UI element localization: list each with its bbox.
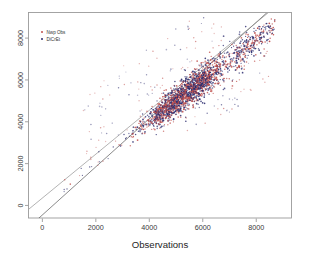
data-point bbox=[173, 119, 175, 121]
data-point bbox=[196, 91, 197, 92]
data-point bbox=[140, 124, 142, 126]
data-point bbox=[195, 100, 196, 101]
data-point bbox=[246, 32, 248, 34]
data-point bbox=[247, 37, 248, 38]
data-point bbox=[172, 68, 173, 69]
data-point bbox=[182, 81, 184, 83]
data-point bbox=[161, 99, 162, 100]
data-point bbox=[239, 52, 241, 54]
data-point bbox=[251, 54, 252, 55]
data-point bbox=[229, 70, 230, 71]
data-point bbox=[187, 93, 188, 94]
data-point bbox=[111, 122, 112, 123]
data-point bbox=[214, 65, 216, 67]
data-point bbox=[241, 45, 242, 46]
data-point bbox=[195, 124, 197, 126]
data-point bbox=[154, 129, 156, 131]
data-point bbox=[152, 93, 153, 94]
data-point bbox=[209, 87, 211, 89]
data-point bbox=[90, 156, 92, 158]
data-point bbox=[236, 67, 238, 69]
data-point bbox=[154, 121, 156, 123]
data-point bbox=[218, 45, 219, 46]
data-point bbox=[193, 97, 195, 99]
data-point bbox=[185, 109, 187, 111]
data-point bbox=[251, 36, 253, 38]
data-point bbox=[199, 78, 201, 80]
data-point bbox=[204, 87, 205, 88]
data-point bbox=[196, 68, 197, 69]
data-point bbox=[250, 89, 251, 90]
data-point bbox=[238, 54, 239, 55]
data-point bbox=[223, 45, 224, 46]
data-point bbox=[247, 55, 248, 56]
data-point bbox=[167, 38, 168, 39]
data-point bbox=[191, 90, 192, 91]
data-point bbox=[166, 112, 167, 113]
data-point bbox=[144, 117, 145, 118]
data-point bbox=[182, 106, 183, 107]
y-tick-label: 2000 bbox=[17, 156, 26, 172]
data-point bbox=[225, 66, 227, 68]
data-point bbox=[206, 81, 207, 82]
data-point bbox=[99, 103, 100, 104]
data-point bbox=[173, 88, 174, 89]
data-point bbox=[256, 44, 258, 46]
data-point bbox=[204, 93, 205, 94]
data-point bbox=[198, 87, 200, 89]
data-point bbox=[266, 32, 268, 34]
data-point bbox=[188, 29, 189, 30]
data-point bbox=[137, 81, 138, 82]
data-point bbox=[249, 52, 250, 53]
data-point bbox=[253, 47, 255, 49]
data-point bbox=[128, 133, 129, 134]
data-point bbox=[226, 56, 227, 57]
data-point bbox=[202, 70, 203, 71]
data-point bbox=[261, 36, 263, 38]
data-point bbox=[183, 100, 184, 101]
data-point bbox=[222, 74, 224, 76]
data-point bbox=[118, 144, 120, 146]
data-point bbox=[169, 115, 170, 116]
data-point bbox=[239, 79, 240, 80]
data-point bbox=[152, 50, 154, 52]
data-point bbox=[197, 99, 199, 101]
plot-canvas: 02000400060008000 02000400060008000 Obse… bbox=[0, 0, 311, 259]
x-tick-label: 0 bbox=[40, 223, 44, 232]
data-point bbox=[132, 137, 134, 139]
data-point bbox=[186, 47, 188, 49]
data-point bbox=[188, 105, 189, 106]
data-point bbox=[159, 107, 161, 109]
data-point bbox=[166, 49, 168, 51]
data-point bbox=[178, 112, 180, 114]
data-point bbox=[221, 73, 222, 74]
data-point bbox=[206, 68, 208, 70]
data-point bbox=[213, 66, 215, 68]
data-point bbox=[265, 53, 266, 54]
data-point bbox=[200, 95, 202, 97]
data-point bbox=[174, 45, 175, 46]
data-point bbox=[187, 59, 188, 60]
data-point bbox=[179, 105, 181, 107]
data-point bbox=[240, 91, 241, 92]
data-point bbox=[212, 77, 213, 78]
data-point bbox=[255, 34, 257, 36]
data-point bbox=[223, 108, 225, 110]
data-point bbox=[249, 38, 251, 40]
data-point bbox=[244, 53, 245, 54]
legend-label-dicret: DiCrEt bbox=[47, 37, 61, 42]
data-point bbox=[200, 76, 202, 78]
data-point bbox=[253, 44, 255, 46]
data-point bbox=[209, 72, 211, 74]
data-point bbox=[137, 139, 139, 141]
data-point bbox=[188, 108, 190, 110]
data-point bbox=[191, 85, 193, 87]
data-point bbox=[118, 87, 119, 88]
data-point bbox=[204, 122, 205, 123]
data-point bbox=[195, 41, 197, 43]
data-point bbox=[206, 61, 207, 62]
data-point bbox=[156, 110, 158, 112]
data-point bbox=[250, 50, 251, 51]
data-point bbox=[132, 133, 134, 135]
data-point bbox=[210, 78, 211, 79]
